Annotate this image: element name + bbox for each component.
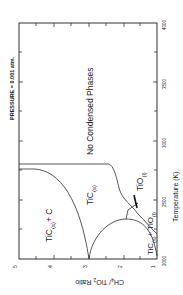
tic-c-boundary-curve <box>19 169 89 259</box>
svg-text:3: 3 <box>82 265 88 268</box>
tio-liquid-label: TiO(l) <box>135 172 147 191</box>
svg-text:1: 1 <box>150 265 156 268</box>
svg-text:2000: 2000 <box>162 255 167 266</box>
svg-text:5: 5 <box>12 265 18 268</box>
pressure-label: PRESSURE = 0.001 atm. <box>9 56 15 120</box>
ratio-axis-label: CH4/ TiO2 Ratio <box>75 277 124 286</box>
tic-c-region-label: TiC(s)+ C <box>44 209 56 242</box>
top-ticks <box>36 23 140 27</box>
ratio-tick-labels: 5 4 3 2 1 <box>12 265 156 268</box>
tic-region-label: TiC(s) <box>85 185 97 205</box>
temperature-axis-label: Temperature (K) <box>172 171 180 222</box>
svg-text:2: 2 <box>117 265 123 268</box>
temperature-tick-labels: 2000 2500 3000 3500 4000 <box>162 19 167 266</box>
no-condensed-label: No Condensed Phases <box>85 68 95 155</box>
svg-text:4: 4 <box>47 265 53 268</box>
ratio-ticks <box>36 255 140 259</box>
svg-text:2500: 2500 <box>162 196 167 207</box>
phase-diagram: PRESSURE = 0.001 atm. No Condensed Phase… <box>0 0 183 295</box>
tio-pointer-arrow <box>134 195 137 208</box>
svg-text:4000: 4000 <box>162 19 167 30</box>
svg-text:3500: 3500 <box>162 78 167 89</box>
svg-text:3000: 3000 <box>162 137 167 148</box>
